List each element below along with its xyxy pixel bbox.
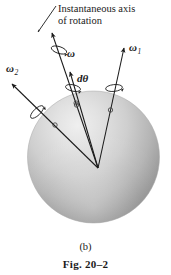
omega1-subscript: 1 — [137, 47, 141, 56]
axis-label-leader — [38, 6, 56, 32]
omega-label: ω — [67, 47, 75, 59]
omega1-label: ω1 — [129, 41, 141, 53]
omega-symbol: ω — [67, 47, 75, 59]
omega2-symbol: ω — [6, 62, 14, 74]
axis-label-line1: Instantaneous axis — [58, 3, 135, 14]
axis-label-line2: of rotation — [58, 15, 135, 27]
omega2-label: ω2 — [6, 62, 18, 74]
omega2-subscript: 2 — [14, 68, 18, 77]
sphere — [28, 91, 160, 223]
figure-graphic — [0, 0, 171, 275]
instantaneous-axis-label: Instantaneous axis of rotation — [58, 3, 135, 27]
figure-caption: Fig. 20–2 — [0, 258, 171, 270]
dtheta-label: dθ — [77, 72, 88, 84]
physics-figure: Instantaneous axis of rotation ω ω1 ω2 d… — [0, 0, 171, 275]
omega1-symbol: ω — [129, 41, 137, 53]
panel-label: (b) — [0, 241, 171, 253]
